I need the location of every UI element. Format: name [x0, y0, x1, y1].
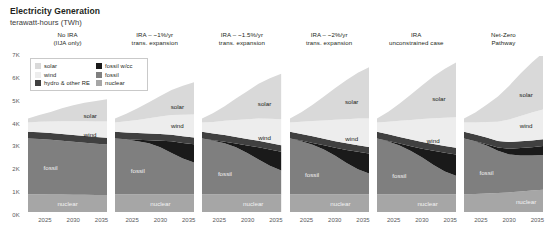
y-axis-tick: 6K — [12, 75, 20, 81]
chart-root: Electricity Generation terawatt-hours (T… — [0, 0, 547, 242]
x-axis-tick: 2030 — [502, 217, 515, 223]
chart-panel: Net-Zero Pathwaysolarwindfossilnuclear20… — [460, 30, 547, 235]
x-axis-tick: 2025 — [300, 217, 313, 223]
legend-swatch-icon — [96, 72, 102, 78]
x-axis-tick: 2035 — [531, 217, 544, 223]
legend-item[interactable]: solar — [35, 62, 90, 70]
legend-item[interactable]: hydro & other RE — [35, 79, 90, 87]
panel-title: Net-Zero Pathway — [460, 30, 547, 56]
x-axis: 202520302035 — [202, 217, 281, 229]
panel-title: IRA – ~1%/yr trans. expansion — [111, 30, 198, 56]
area-series-nuclear — [28, 194, 107, 212]
legend-swatch-icon — [96, 63, 102, 69]
x-axis-tick: 2035 — [269, 217, 282, 223]
plot-wrap: solarwindfossilnuclear202520302035 — [464, 56, 543, 235]
plot-area: solarwindfossilnuclear — [202, 56, 281, 212]
x-axis-tick: 2030 — [67, 217, 80, 223]
x-axis: 202520302035 — [464, 217, 543, 229]
x-axis: 202520302035 — [290, 217, 369, 229]
x-axis-tick: 2025 — [38, 217, 51, 223]
plot-area: solarwindfossilnuclear — [464, 56, 543, 212]
panel-title: IRA – ~2%/yr trans. expansion — [286, 30, 373, 56]
legend-item[interactable]: fossil w/cc — [96, 62, 133, 70]
legend-swatch-icon — [35, 80, 41, 86]
y-axis-tick: 0K — [12, 212, 20, 218]
y-axis-tick: 4K — [12, 121, 20, 127]
legend-item[interactable]: wind — [35, 71, 90, 79]
x-axis-tick: 2025 — [213, 217, 226, 223]
y-axis-tick: 2K — [12, 166, 20, 172]
x-axis: 202520302035 — [115, 217, 194, 229]
title-block: Electricity Generation terawatt-hours (T… — [10, 6, 100, 28]
legend-item[interactable]: fossil — [96, 71, 133, 79]
plot-wrap: solarwindfossilnuclear202520302035 — [202, 56, 281, 235]
panel-title: IRA unconstrained case — [373, 30, 460, 56]
x-axis-tick: 2030 — [328, 217, 341, 223]
x-axis-tick: 2030 — [241, 217, 254, 223]
chart-panel: IRA – ~1.5%/yr trans. expansionsolarwind… — [198, 30, 285, 235]
area-series-nuclear — [115, 194, 194, 212]
y-axis: 0K1K2K3K4K5K6K7K — [0, 55, 24, 215]
page-title: Electricity Generation — [10, 6, 100, 17]
x-axis: 202520302035 — [28, 217, 107, 229]
plot-wrap: solarwindfossilnuclear202520302035 — [290, 56, 369, 235]
chart-subtitle: terawatt-hours (TWh) — [10, 17, 100, 28]
chart-panel: IRA unconstrained casesolarwindfossilnuc… — [373, 30, 460, 235]
x-axis-tick: 2035 — [95, 217, 108, 223]
x-axis-tick: 2025 — [125, 217, 138, 223]
x-axis-tick: 2030 — [415, 217, 428, 223]
legend-item-label: hydro & other RE — [44, 80, 90, 86]
plot-area: solarwindfossilnuclear — [377, 56, 456, 212]
area-series-solar — [377, 62, 456, 122]
legend-item-label: nuclear — [105, 80, 125, 86]
panel-title: IRA – ~1.5%/yr trans. expansion — [198, 30, 285, 56]
legend-swatch-icon — [35, 72, 41, 78]
legend-column-right: fossil w/ccfossilnuclear — [96, 62, 133, 87]
legend-column-left: solarwindhydro & other RE — [35, 62, 90, 87]
plot-wrap: solarwindfossilnuclear202520302035 — [377, 56, 456, 235]
x-axis-tick: 2035 — [444, 217, 457, 223]
area-series-nuclear — [202, 194, 281, 212]
legend-item[interactable]: nuclear — [96, 79, 133, 87]
x-axis-tick: 2035 — [356, 217, 369, 223]
legend-swatch-icon — [96, 80, 102, 86]
legend-item-label: solar — [44, 63, 57, 69]
area-series-solar — [202, 74, 281, 123]
x-axis-tick: 2025 — [474, 217, 487, 223]
y-axis-tick: 1K — [12, 189, 20, 195]
area-series-solar — [28, 99, 107, 122]
legend-item-label: fossil w/cc — [105, 63, 133, 69]
area-series-solar — [464, 56, 543, 122]
y-axis-tick: 5K — [12, 98, 20, 104]
legend-swatch-icon — [35, 63, 41, 69]
chart-panel: IRA – ~2%/yr trans. expansionsolarwindfo… — [286, 30, 373, 235]
x-axis-tick: 2030 — [154, 217, 167, 223]
y-axis-tick: 7K — [12, 52, 20, 58]
plot-area: solarwindfossilnuclear — [290, 56, 369, 212]
y-axis-tick: 3K — [12, 143, 20, 149]
area-series-fossil — [28, 138, 107, 195]
panel-title: No IRA (IIJA only) — [24, 30, 111, 56]
x-axis: 202520302035 — [377, 217, 456, 229]
x-axis-tick: 2025 — [387, 217, 400, 223]
chart-legend: solarwindhydro & other RE fossil w/ccfos… — [30, 58, 148, 91]
legend-item-label: wind — [44, 72, 56, 78]
area-series-nuclear — [290, 194, 369, 212]
area-series-nuclear — [377, 194, 456, 212]
area-series-solar — [290, 67, 369, 122]
legend-item-label: fossil — [105, 72, 119, 78]
x-axis-tick: 2035 — [182, 217, 195, 223]
